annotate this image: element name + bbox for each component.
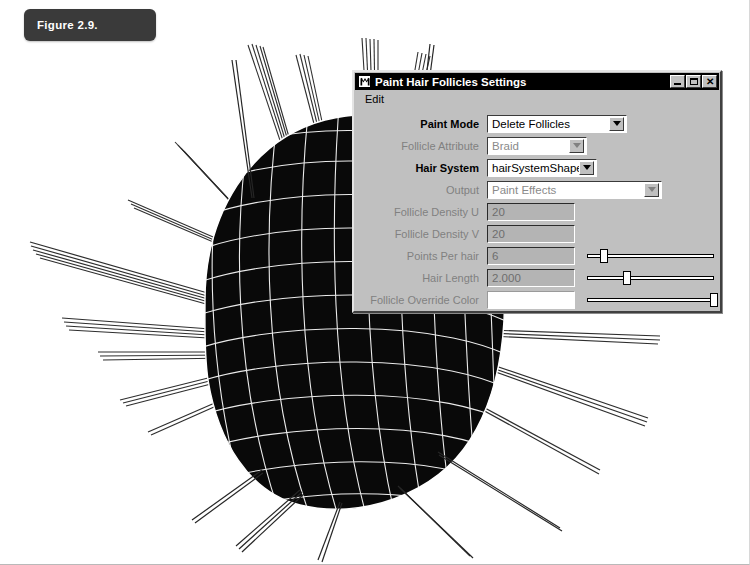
input-follicle-density-v[interactable]: 20 <box>487 225 575 243</box>
chevron-down-icon[interactable] <box>569 139 584 153</box>
row-follicle-density-u: Follicle Density U 20 <box>354 201 720 222</box>
figure-caption-text: Figure 2.9. <box>37 19 98 31</box>
input-hair-length[interactable]: 2.000 <box>487 269 575 287</box>
label-follicle-density-u: Follicle Density U <box>354 206 487 218</box>
row-follicle-density-v: Follicle Density V 20 <box>354 223 720 244</box>
label-hair-length: Hair Length <box>354 272 487 284</box>
figure-caption-banner: Figure 2.9. <box>24 9 156 41</box>
maya-m-icon <box>358 75 371 88</box>
row-points-per-hair: Points Per hair 6 <box>354 245 720 266</box>
chevron-down-icon[interactable] <box>609 117 624 131</box>
slider-follicle-override-color[interactable] <box>587 291 714 309</box>
label-output: Output <box>354 184 487 196</box>
input-follicle-density-u[interactable]: 20 <box>487 203 575 221</box>
dropdown-follicle-attribute-value: Braid <box>488 140 569 152</box>
chevron-down-icon[interactable] <box>579 161 594 175</box>
chevron-down-icon[interactable] <box>644 183 659 197</box>
window-buttons: ✕ <box>670 75 717 88</box>
input-follicle-density-u-value: 20 <box>488 206 505 218</box>
figure-page: Figure 2.9. Paint Hair Follicles Setting… <box>0 0 750 565</box>
close-button[interactable]: ✕ <box>702 75 717 88</box>
minimize-button[interactable] <box>670 75 685 88</box>
slider-handle[interactable] <box>710 293 718 307</box>
row-hair-system: Hair System hairSystemShape1 <box>354 157 720 178</box>
input-points-per-hair[interactable]: 6 <box>487 247 575 265</box>
color-swatch-follicle-override[interactable] <box>487 291 575 309</box>
dialog-title: Paint Hair Follicles Settings <box>375 76 670 88</box>
input-points-per-hair-value: 6 <box>488 250 498 262</box>
dropdown-hair-system-value: hairSystemShape1 <box>488 162 579 174</box>
dropdown-output-value: Paint Effects <box>488 184 644 196</box>
row-follicle-override-color: Follicle Override Color <box>354 289 720 310</box>
slider-track <box>587 276 714 280</box>
input-follicle-density-v-value: 20 <box>488 228 505 240</box>
dialog-menubar: Edit <box>354 90 720 109</box>
dialog-titlebar[interactable]: Paint Hair Follicles Settings ✕ <box>355 73 719 90</box>
dropdown-follicle-attribute[interactable]: Braid <box>487 137 587 155</box>
maximize-icon <box>690 78 698 85</box>
slider-track <box>587 298 714 302</box>
menu-item-edit[interactable]: Edit <box>361 92 388 106</box>
label-follicle-density-v: Follicle Density V <box>354 228 487 240</box>
dropdown-paint-mode-value: Delete Follicles <box>488 118 609 130</box>
close-icon: ✕ <box>706 77 714 86</box>
dropdown-hair-system[interactable]: hairSystemShape1 <box>487 159 597 177</box>
row-follicle-attribute: Follicle Attribute Braid <box>354 135 720 156</box>
label-paint-mode: Paint Mode <box>354 118 487 130</box>
slider-points-per-hair[interactable] <box>587 247 714 265</box>
paint-hair-follicles-settings-dialog[interactable]: Paint Hair Follicles Settings ✕ Edit Pai… <box>352 70 722 313</box>
row-output: Output Paint Effects <box>354 179 720 200</box>
slider-hair-length[interactable] <box>587 269 714 287</box>
row-hair-length: Hair Length 2.000 <box>354 267 720 288</box>
dropdown-paint-mode[interactable]: Delete Follicles <box>487 115 627 133</box>
label-hair-system: Hair System <box>354 162 487 174</box>
slider-handle[interactable] <box>623 271 631 285</box>
input-hair-length-value: 2.000 <box>488 272 521 284</box>
label-follicle-attribute: Follicle Attribute <box>354 140 487 152</box>
dropdown-output[interactable]: Paint Effects <box>487 181 662 199</box>
label-points-per-hair: Points Per hair <box>354 250 487 262</box>
minimize-icon <box>674 83 681 85</box>
maximize-button[interactable] <box>686 75 701 88</box>
slider-handle[interactable] <box>600 249 608 263</box>
label-follicle-override-color: Follicle Override Color <box>354 294 487 306</box>
row-paint-mode: Paint Mode Delete Follicles <box>354 113 720 134</box>
settings-form: Paint Mode Delete Follicles Follicle Att… <box>354 109 720 310</box>
